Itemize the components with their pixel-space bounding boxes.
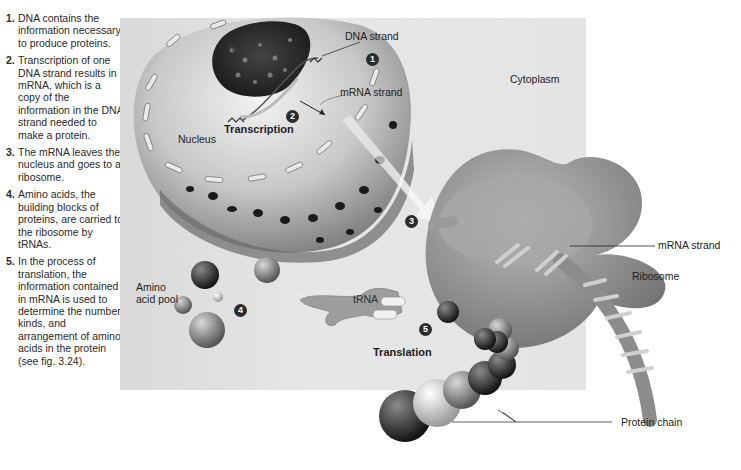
label-mrna-strand-nucleus: mRNA strand: [340, 86, 402, 98]
step-badge-4: 4: [234, 304, 247, 317]
label-cytoplasm: Cytoplasm: [510, 73, 560, 85]
label-protein-chain: Protein chain: [621, 416, 682, 428]
label-nucleus: Nucleus: [178, 133, 216, 145]
label-amino-acid-pool: Amino acid pool: [136, 281, 186, 305]
label-dna-strand: DNA strand: [345, 30, 399, 42]
step-badge-2: 2: [286, 110, 299, 123]
label-ribosome: Ribosome: [632, 270, 679, 282]
protein-synthesis-illustration: [0, 0, 741, 470]
step-badge-1: 1: [366, 53, 379, 66]
label-mrna-strand-ribosome: mRNA strand: [658, 239, 720, 251]
amino-acid-pool: [174, 257, 280, 348]
step-badge-5: 5: [419, 323, 432, 336]
step-badge-3: 3: [405, 215, 418, 228]
label-transcription: Transcription: [224, 123, 294, 135]
label-nucleolus: Nucleolus: [228, 42, 274, 54]
protein-chain: [379, 301, 519, 442]
label-trna: tRNA: [353, 293, 378, 305]
label-translation: Translation: [373, 346, 432, 358]
